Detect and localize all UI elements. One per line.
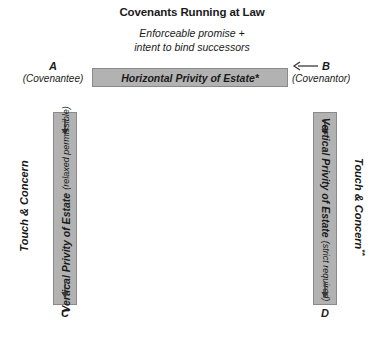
node-a-role: (Covenantee) [14,73,92,84]
vertical-privity-left-text: Vertical Privity of Estate (relaxed perm… [54,113,78,306]
covenants-diagram: Covenants Running at Law Enforceable pro… [0,0,384,338]
diagram-subtitle: Enforceable promise + intent to bind suc… [0,26,384,54]
horizontal-privity-bar: Horizontal Privity of Estate* [92,68,288,87]
vertical-privity-right-label: Vertical Privity of Estate [320,118,331,238]
arrow-down-icon [60,282,71,298]
touch-and-concern-right-label: Touch & Concern [353,158,365,249]
touch-and-concern-left-label: Touch & Concern [18,160,30,251]
node-d: D [295,307,355,319]
vertical-privity-bar-right: Vertical Privity of Estate (strict requi… [313,112,337,305]
node-d-letter: D [295,307,355,319]
vertical-privity-right-text: Vertical Privity of Estate (strict requi… [314,113,338,306]
node-a: A (Covenantee) [14,60,92,84]
node-b-role: (Covenantor) [292,73,382,84]
vertical-privity-left-qualifier: (relaxed permissible) [61,106,70,190]
node-b-letter: B [322,60,330,72]
node-c: C [35,307,95,319]
node-b: B (Covenantor) [292,60,382,84]
subtitle-line-1: Enforceable promise + [0,26,384,40]
diagram-title: Covenants Running at Law [0,6,384,18]
subtitle-line-2: intent to bind successors [0,40,384,54]
touch-and-concern-left: Touch & Concern [18,146,30,266]
touch-and-concern-right-superscript: ** [358,249,367,255]
node-c-letter: C [35,307,95,319]
arrow-down-icon [320,282,331,298]
arrow-left-icon [292,61,318,71]
vertical-privity-bar-left: Vertical Privity of Estate (relaxed perm… [53,112,77,305]
node-a-letter: A [14,60,92,72]
horizontal-privity-label: Horizontal Privity of Estate* [93,69,287,86]
touch-and-concern-right: Touch & Concern** [353,147,367,267]
